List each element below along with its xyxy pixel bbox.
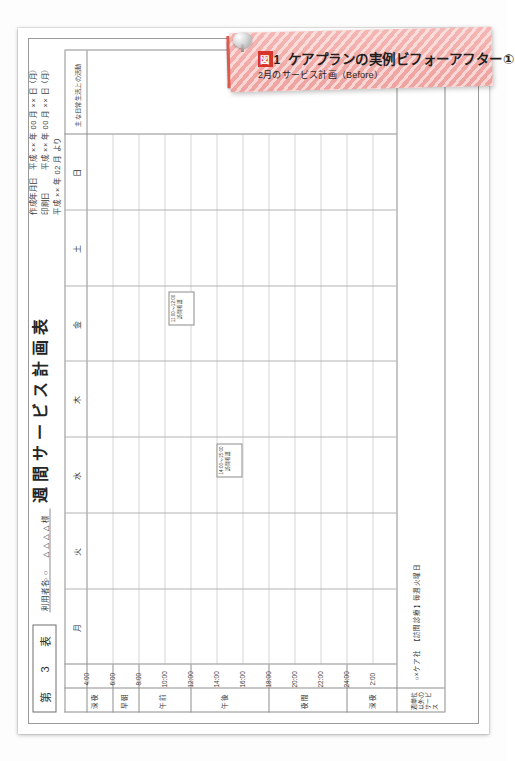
service-entry-wed[interactable]: 14:00〜15:00 訪問看護 xyxy=(216,443,242,477)
hour-line-6 xyxy=(112,134,113,664)
figure-badge-icon: 図 xyxy=(258,51,273,67)
meta-created-date: 作成年月日 平成 ×× 年 00 月 ×× 日（月） xyxy=(26,65,37,214)
weekly-service-plan-form: 第 3 表 週間サービス計画表 利用者名 ○○ △△△△ 様 作成年月日 平成 … xyxy=(18,28,489,734)
time-label-4: 12:00 xyxy=(186,671,193,687)
hour-line-14 xyxy=(216,134,217,664)
figure-number: 1 xyxy=(274,53,281,67)
period-label-gozen: 午前 xyxy=(156,692,166,708)
day-header-wed: 水 xyxy=(70,471,81,479)
banner-title-row: 図1ケアプランの実例ビフォーアフター① xyxy=(258,48,493,68)
time-label-8: 20:00 xyxy=(290,671,297,687)
period-sep-1 xyxy=(112,664,113,712)
time-label-9: 22:00 xyxy=(316,671,323,687)
banner-title-text: ケアプランの実例ビフォーアフター① xyxy=(288,52,515,67)
day-header-fri: 金 xyxy=(70,320,81,328)
form-number-box: 第 3 表 xyxy=(32,624,56,712)
period-sep-2 xyxy=(138,664,139,712)
day-header-tue: 火 xyxy=(70,547,81,555)
form-number-label: 第 xyxy=(36,689,52,702)
time-label-1: 6:00 xyxy=(108,672,115,685)
grid-bottom-border xyxy=(444,50,445,712)
time-label-5: 14:00 xyxy=(212,671,219,687)
period-label-yakan: 夜間 xyxy=(298,692,308,708)
form-number-value: 3 xyxy=(38,664,50,672)
hour-line-24 xyxy=(346,134,347,664)
day-header-activities: 主な日常生活上の活動 xyxy=(72,63,81,126)
time-label-0: 4:00 xyxy=(82,672,89,685)
time-label-11: 2:00 xyxy=(368,672,375,685)
day-header-mon: 月 xyxy=(70,623,81,631)
hour-line-8 xyxy=(138,134,139,664)
hour-line-12 xyxy=(190,134,191,664)
period-label-shinya-2: 深夜 xyxy=(366,692,376,708)
meta-effective-from: 平成 ×× 年 02 月 より xyxy=(50,137,61,214)
banner-subtitle: 2月のサービス計画（Before） xyxy=(258,68,383,81)
grid-top-border xyxy=(64,50,65,712)
form-number-unit: 表 xyxy=(36,634,52,647)
bottom-row-label: 週単位以外のサービス xyxy=(410,689,438,709)
time-label-3: 10:00 xyxy=(160,671,167,687)
bottom-row-divider xyxy=(396,687,444,688)
period-label-socho: 早朝 xyxy=(118,692,128,708)
hour-line-2 xyxy=(372,134,373,664)
bottom-row-value: ○×ケア社 【訪問診療】毎週火曜日 xyxy=(410,563,420,680)
form-title: 週間サービス計画表 xyxy=(26,313,50,502)
service-entry-wed-text: 訪問看護 xyxy=(224,445,230,475)
user-name-value: ○○ △△△△ xyxy=(38,522,49,582)
hour-line-18 xyxy=(268,134,269,664)
push-pin-icon xyxy=(233,32,253,52)
time-label-2: 8:00 xyxy=(134,672,141,685)
document-sheet: 第 3 表 週間サービス計画表 利用者名 ○○ △△△△ 様 作成年月日 平成 … xyxy=(18,28,489,734)
day-header-thu: 木 xyxy=(70,395,81,403)
service-entry-wed-time: 14:00〜15:00 xyxy=(218,445,224,475)
grid-header-sep xyxy=(86,50,87,712)
user-name-underline xyxy=(49,508,50,612)
day-header-sun: 日 xyxy=(70,168,81,176)
hour-line-20 xyxy=(294,134,295,664)
day-header-sat: 土 xyxy=(70,244,81,252)
hour-line-16 xyxy=(242,134,243,664)
period-label-shinya-1: 深夜 xyxy=(88,692,98,708)
time-label-10: 24:00 xyxy=(342,671,349,687)
time-label-6: 16:00 xyxy=(238,671,245,687)
hour-line-10 xyxy=(164,134,165,664)
grid-body-bottom xyxy=(396,50,397,712)
meta-printed-date: 印刷日 平成 ×× 年 00 月 ×× 日（月） xyxy=(38,65,49,214)
user-name-suffix: 様 xyxy=(38,514,49,522)
service-entry-fri-time: 11:00〜12:00 xyxy=(170,293,176,323)
service-entry-fri-text: 訪問看護 xyxy=(176,293,182,323)
time-label-7: 18:00 xyxy=(264,671,271,687)
service-entry-fri[interactable]: 11:00〜12:00 訪問看護 xyxy=(168,291,194,325)
period-label-gogo: 午後 xyxy=(218,692,228,708)
grid-left-border xyxy=(64,711,444,712)
user-name-label: 利用者名 xyxy=(38,578,49,610)
hour-line-22 xyxy=(320,134,321,664)
